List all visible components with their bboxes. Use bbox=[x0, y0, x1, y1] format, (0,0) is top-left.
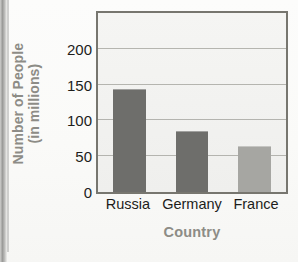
y-tick-label-50: 50 bbox=[52, 148, 92, 165]
x-tick-label-russia: Russia bbox=[106, 196, 150, 212]
y-axis-title: Number of People (in millions) bbox=[11, 15, 42, 193]
bar-france[interactable] bbox=[238, 146, 271, 192]
y-tick-label-0: 0 bbox=[52, 184, 92, 201]
y-axis-tick-labels: 050100150200 bbox=[48, 11, 92, 194]
plot-area-frame bbox=[96, 11, 288, 194]
y-axis-title-line-2: (in millions) bbox=[27, 15, 43, 193]
y-axis-title-line-1: Number of People bbox=[11, 15, 27, 193]
plot-area bbox=[98, 13, 286, 192]
y-tick-label-200: 200 bbox=[52, 40, 92, 57]
gridline-150 bbox=[98, 84, 286, 85]
x-tick-label-france: France bbox=[233, 196, 278, 212]
y-tick-label-100: 100 bbox=[52, 112, 92, 129]
gridline-200 bbox=[98, 48, 286, 49]
y-tick-label-150: 150 bbox=[52, 76, 92, 93]
bar-germany[interactable] bbox=[176, 131, 209, 192]
bar-russia[interactable] bbox=[113, 89, 146, 192]
x-axis-title: Country bbox=[96, 224, 288, 240]
x-tick-label-germany: Germany bbox=[162, 196, 222, 212]
bar-chart: Number of People (in millions) 050100150… bbox=[0, 0, 298, 262]
x-axis-tick-labels: RussiaGermanyFrance bbox=[96, 196, 288, 216]
